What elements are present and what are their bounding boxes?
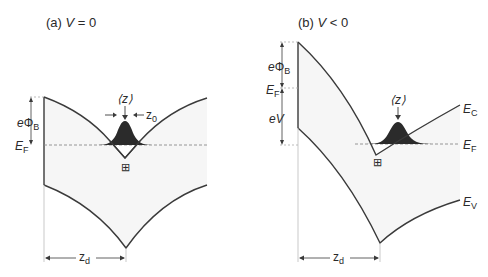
panel-b-depletion-label: zd (333, 250, 344, 266)
band-diagram: (a) V = 0 ⊞ ⟨z⟩ z0 eΦB (0, 0, 488, 277)
panel-b-title: (b) V < 0 (298, 15, 348, 30)
panel-b-bias-label: eV (269, 112, 285, 126)
panel-b-fermi-right-label: EF (463, 138, 477, 154)
panel-b-mean-z-label: ⟨z⟩ (390, 93, 406, 107)
panel-a-title: (a) V = 0 (46, 15, 96, 30)
panel-b-barrier-label: eΦB (268, 60, 290, 76)
panel-b-conduction-label: EC (463, 102, 478, 118)
panel-a-depletion-label: zd (79, 250, 90, 266)
panel-a-hole-icon: ⊞ (121, 161, 130, 173)
panel-a-barrier-label: eΦB (17, 116, 39, 132)
panel-b-hole-icon: ⊞ (373, 156, 382, 168)
panel-a: (a) V = 0 ⊞ ⟨z⟩ z0 eΦB (15, 15, 207, 266)
panel-b: (b) V < 0 ⊞ ⟨z⟩ EC EF EV (266, 15, 478, 266)
panel-b-fermi-label: EF (266, 83, 280, 99)
panel-a-fermi-label: EF (15, 139, 29, 155)
panel-a-width-label: z0 (146, 108, 157, 124)
panel-b-valence-label: EV (463, 195, 477, 211)
panel-a-mean-z-label: ⟨z⟩ (117, 92, 133, 106)
